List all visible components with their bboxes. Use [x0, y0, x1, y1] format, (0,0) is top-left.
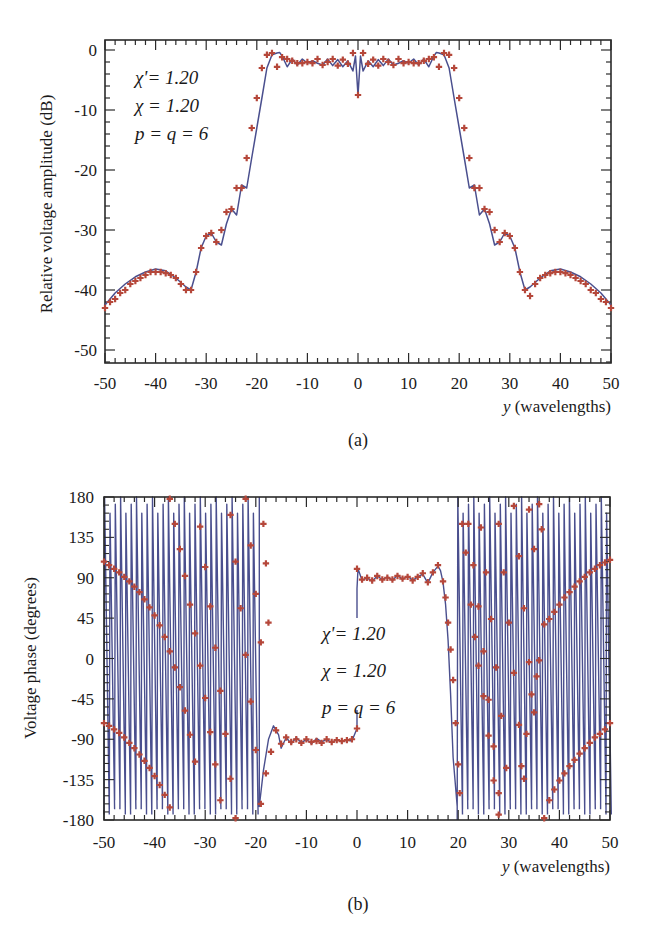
phase-sample-marker — [111, 726, 117, 732]
amplitude-sample-marker — [532, 281, 538, 287]
amplitude-sample-marker — [517, 269, 523, 275]
phase-sample-marker — [472, 634, 478, 640]
x-tick-label: 50 — [603, 374, 620, 393]
phase-sample-marker — [459, 521, 465, 527]
amplitude-sample-marker — [608, 305, 614, 311]
phase-sample-marker — [582, 745, 588, 751]
phase-sample-marker — [526, 506, 532, 512]
phase-sample-marker — [207, 729, 213, 735]
phase-sample-marker — [273, 727, 279, 733]
phase-sample-marker — [212, 761, 218, 767]
phase-sample-marker — [518, 763, 524, 769]
amplitude-sample-marker — [370, 56, 376, 62]
phase-sample-marker — [495, 790, 501, 796]
x-tick-label: -10 — [296, 374, 319, 393]
panel-label-b: (b) — [348, 894, 369, 915]
phase-sample-marker — [566, 763, 572, 769]
amplitude-sample-marker — [249, 125, 255, 131]
phase-sample-marker — [597, 731, 603, 737]
x-tick-label: -40 — [143, 833, 166, 852]
phase-sample-marker — [354, 725, 360, 731]
phase-sample-marker — [455, 761, 461, 767]
phase-sample-marker — [490, 777, 496, 783]
phase-sample-marker — [561, 594, 567, 600]
x-tick-label: -30 — [195, 374, 218, 393]
amplitude-sample-marker — [314, 56, 320, 62]
phase-sample-marker — [182, 573, 188, 579]
amplitude-sample-marker — [259, 65, 265, 71]
phase-sample-marker — [172, 521, 178, 527]
x-tick-label: -50 — [94, 374, 117, 393]
x-tick-label: 30 — [500, 833, 517, 852]
phase-sample-marker — [450, 677, 456, 683]
x-tick-label: -40 — [144, 374, 167, 393]
phase-sample-marker — [485, 697, 491, 703]
amplitude-sample-marker — [527, 293, 533, 299]
phase-sample-marker — [607, 720, 613, 726]
amplitude-sample-marker — [451, 65, 457, 71]
amplitude-sample-marker — [178, 281, 184, 287]
phase-sample-marker — [217, 797, 223, 803]
phase-sample-marker — [571, 757, 577, 763]
phase-sample-marker — [187, 601, 193, 607]
phase-sample-marker — [116, 730, 122, 736]
y-tick-label: -40 — [74, 281, 97, 300]
amplitude-sample-marker — [522, 287, 528, 293]
x-tick-label: -20 — [245, 374, 268, 393]
x-tick-label: 30 — [501, 374, 518, 393]
phase-param-pq: p = q = 6 — [320, 697, 396, 718]
phase-sample-marker — [202, 564, 208, 570]
amplitude-curve — [105, 52, 611, 305]
amplitude-sample-marker — [274, 64, 280, 70]
y-tick-label: -10 — [74, 101, 97, 120]
phase-sample-marker — [576, 750, 582, 756]
phase-param-chi-prime: χ'= 1.20 — [320, 623, 386, 644]
phase-sample-marker — [445, 619, 451, 625]
phase-sample-marker — [556, 601, 562, 607]
phase-sample-marker — [490, 743, 496, 749]
amplitude-sample-marker — [355, 92, 361, 98]
phase-y-tick-labels: 18013590450-45-90-135-180 — [63, 488, 94, 830]
phase-sample-marker — [465, 521, 471, 527]
phase-sample-marker — [551, 609, 557, 615]
phase-chart-panel: -50-40-30-20-1001020304050 18013590450-4… — [21, 488, 619, 915]
figure: -50-40-30-20-1001020304050 0-10-20-30-40… — [0, 0, 649, 941]
phase-sample-marker — [268, 749, 274, 755]
amplitude-x-axis-title: y (wavelengths) — [501, 397, 611, 416]
phase-sample-marker — [263, 560, 269, 566]
amplitude-sample-marker — [218, 227, 224, 233]
phase-sample-marker — [217, 688, 223, 694]
amplitude-sample-marker — [461, 125, 467, 131]
x-tick-label: -10 — [295, 833, 318, 852]
amplitude-param-chi-prime: χ'= 1.20 — [133, 67, 199, 88]
phase-sample-marker — [172, 664, 178, 670]
x-tick-label: -20 — [244, 833, 267, 852]
y-tick-label: -135 — [63, 771, 94, 790]
amplitude-sample-marker — [496, 239, 502, 245]
amplitude-sample-marker — [350, 50, 356, 56]
y-tick-label: 0 — [89, 41, 98, 60]
phase-sample-marker — [470, 562, 476, 568]
y-tick-label: 0 — [86, 650, 95, 669]
y-tick-label: -180 — [63, 811, 94, 830]
phase-sample-marker — [197, 523, 203, 529]
phase-sample-marker — [571, 584, 577, 590]
y-tick-label: 180 — [69, 488, 95, 507]
phase-sample-marker — [546, 616, 552, 622]
amplitude-sample-marker — [213, 239, 219, 245]
x-tick-label: 20 — [451, 374, 468, 393]
phase-sample-marker — [278, 741, 284, 747]
x-tick-label: 40 — [552, 374, 569, 393]
phase-sample-marker — [442, 594, 448, 600]
amplitude-sample-marker — [395, 56, 401, 62]
phase-x-tick-labels: -50-40-30-20-1001020304050 — [93, 833, 619, 852]
x-tick-label: 20 — [450, 833, 467, 852]
phase-sample-marker — [495, 811, 501, 817]
amplitude-chart-panel: -50-40-30-20-1001020304050 0-10-20-30-40… — [37, 40, 620, 451]
phase-sample-marker — [587, 740, 593, 746]
y-tick-label: 135 — [69, 528, 95, 547]
y-tick-label: 90 — [77, 569, 94, 588]
phase-x-axis-title: y (wavelengths) — [500, 857, 610, 876]
phase-sample-marker — [121, 734, 127, 740]
amplitude-sample-marker — [198, 245, 204, 251]
